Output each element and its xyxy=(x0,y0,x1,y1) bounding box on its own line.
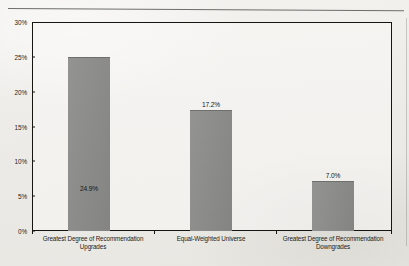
x-axis-label-line: Greatest Degree of Recommendation xyxy=(283,235,384,243)
x-axis-label-line: Greatest Degree of Recommendation xyxy=(43,235,144,243)
x-axis-label-line: Equal-Weighted Universe xyxy=(177,235,246,243)
x-axis-label-upgrades: Greatest Degree of Recommendation Upgrad… xyxy=(43,235,144,252)
bar-value-label: 24.9% xyxy=(80,185,98,192)
bar-greatest-degree-of-recommendation-downgrades[interactable] xyxy=(312,181,354,231)
bars-layer: 24.9% 17.2% 7.0% xyxy=(32,22,392,231)
y-axis: 30% 25% 20% 15% 10% 5% 0% xyxy=(0,0,32,266)
y-axis-tick-label: 20% xyxy=(15,88,28,95)
bar-chart: 30% 25% 20% 15% 10% 5% 0% 24.9% 17.2% 7.… xyxy=(0,0,409,266)
bar-value-label: 17.2% xyxy=(202,101,220,108)
bar-greatest-degree-of-recommendation-upgrades[interactable] xyxy=(68,57,110,232)
y-axis-tick-label: 30% xyxy=(15,19,28,26)
bar-equal-weighted-universe[interactable] xyxy=(190,110,232,231)
bar-value-label: 7.0% xyxy=(326,172,341,179)
y-axis-tick-label: 15% xyxy=(15,123,28,130)
x-axis-label-line: Downgrades xyxy=(283,243,384,251)
y-axis-tick-label: 0% xyxy=(18,228,27,235)
x-axis-label-equal-weighted-universe: Equal-Weighted Universe xyxy=(177,235,246,243)
x-axis-label-line: Upgrades xyxy=(43,243,144,251)
x-axis-label-downgrades: Greatest Degree of Recommendation Downgr… xyxy=(283,235,384,252)
y-axis-tick-label: 5% xyxy=(18,193,27,200)
x-axis-category-labels: Greatest Degree of Recommendation Upgrad… xyxy=(32,234,392,264)
y-axis-tick-label: 10% xyxy=(15,158,28,165)
y-axis-tick-label: 25% xyxy=(15,53,28,60)
